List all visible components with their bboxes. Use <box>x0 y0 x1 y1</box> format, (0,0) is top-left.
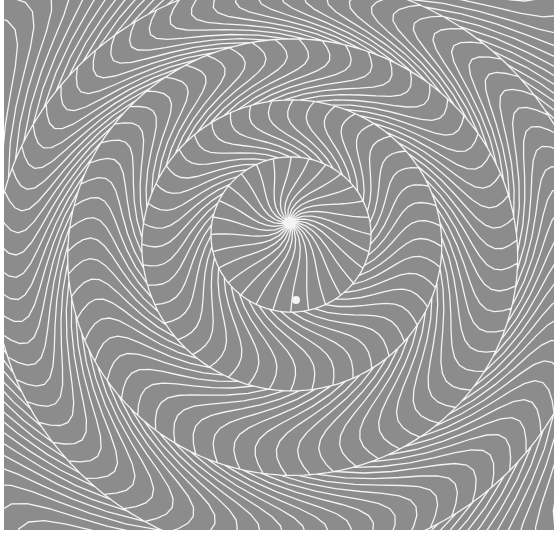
spiral-pattern <box>4 0 554 530</box>
op-art-canvas <box>4 0 554 530</box>
